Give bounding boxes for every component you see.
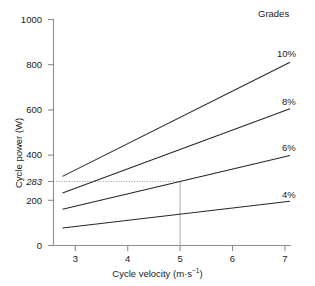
x-axis-title-exponent: −1 [192, 267, 200, 274]
x-tick-label-4: 4 [119, 254, 137, 264]
x-tick-label-7: 7 [276, 254, 294, 264]
y-axis-ticks [48, 20, 54, 246]
x-tick-label-3: 3 [66, 254, 84, 264]
cycle-power-chart: 1000 800 600 400 283 200 0 3 4 5 6 7 Cyc… [0, 0, 315, 286]
legend-title: Grades [258, 9, 289, 19]
y-tick-label-0: 0 [8, 241, 42, 251]
y-axis-title: Cycle power (W) [14, 118, 24, 188]
series-line-4pct [63, 201, 291, 228]
y-tick-label-800: 800 [8, 60, 42, 70]
y-tick-label-600: 600 [8, 105, 42, 115]
x-axis-title-text: Cycle velocity (m·s [112, 268, 192, 279]
y-tick-label-200: 200 [8, 196, 42, 206]
series-label-8pct: 8% [282, 97, 296, 107]
series-line-6pct [63, 156, 291, 210]
series-line-8pct [63, 109, 291, 193]
series-label-4pct: 4% [282, 190, 296, 200]
x-axis-ticks [75, 246, 285, 252]
series-label-6pct: 6% [282, 143, 296, 153]
series-label-10pct: 10% [277, 49, 296, 59]
y-tick-label-1000: 1000 [8, 15, 42, 25]
x-axis-title: Cycle velocity (m·s−1) [0, 269, 315, 279]
x-axis-title-close: ) [200, 268, 203, 279]
series-line-10pct [63, 62, 291, 176]
x-tick-label-6: 6 [224, 254, 242, 264]
x-tick-label-5: 5 [171, 254, 189, 264]
chart-canvas [0, 0, 315, 286]
